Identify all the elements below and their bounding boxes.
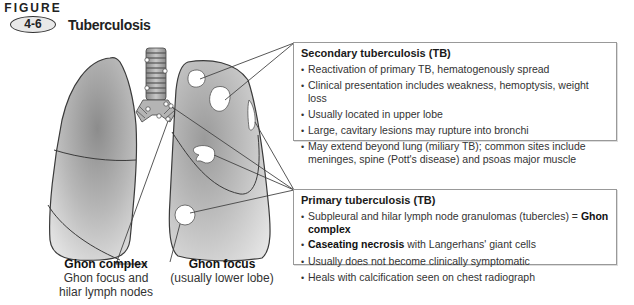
right-lung bbox=[48, 58, 137, 261]
primary-tb-item: Usually does not become clinically sympt… bbox=[301, 255, 610, 268]
ghon-complex-caption: Ghon complex Ghon focus and hilar lymph … bbox=[46, 257, 166, 299]
trachea bbox=[136, 48, 176, 122]
primary-tb-item: Subpleural and hilar lymph node granulom… bbox=[301, 210, 610, 235]
secondary-tb-item: Usually located in upper lobe bbox=[301, 108, 610, 121]
ghon-complex-title: Ghon complex bbox=[64, 257, 147, 271]
ghon-focus-lesion bbox=[175, 205, 195, 225]
left-lung bbox=[169, 61, 270, 261]
primary-tb-item: Heals with calcification seen on chest r… bbox=[301, 271, 610, 284]
secondary-tb-item: Clinical presentation includes weakness,… bbox=[301, 79, 610, 104]
secondary-tb-heading: Secondary tuberculosis (TB) bbox=[301, 47, 610, 59]
ghon-focus-title: Ghon focus bbox=[189, 257, 256, 271]
secondary-tb-item: Reactivation of primary TB, hematogenous… bbox=[301, 63, 610, 76]
primary-tb-item: Caseating necrosis with Langerhans' gian… bbox=[301, 238, 610, 251]
primary-tb-heading: Primary tuberculosis (TB) bbox=[301, 194, 610, 206]
secondary-tb-item: May extend beyond lung (miliary TB); com… bbox=[301, 140, 610, 165]
secondary-tb-item: Large, cavitary lesions may rupture into… bbox=[301, 124, 610, 137]
secondary-tb-box: Secondary tuberculosis (TB) Reactivation… bbox=[293, 42, 617, 141]
ghon-focus-caption: Ghon focus (usually lower lobe) bbox=[158, 257, 286, 285]
primary-tb-box: Primary tuberculosis (TB) Subpleural and… bbox=[293, 189, 617, 265]
